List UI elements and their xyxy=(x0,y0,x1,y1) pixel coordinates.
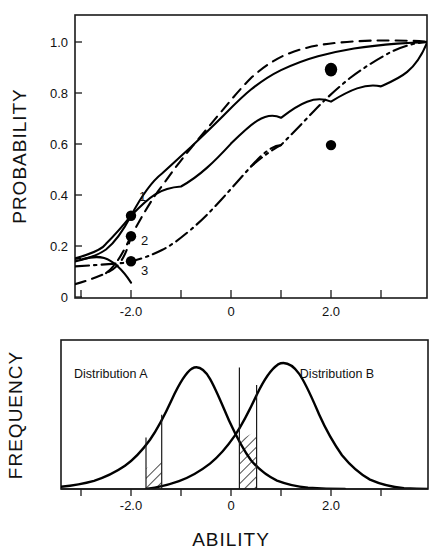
top-xtick-0: 0 xyxy=(227,304,234,319)
curve-label-1: 1 xyxy=(139,189,146,204)
marker-curve-3 xyxy=(126,256,136,266)
curve-label-2: 2 xyxy=(141,233,148,248)
marker-curve-1 xyxy=(126,211,136,221)
bottom-xtick-0: 0 xyxy=(227,498,234,513)
top-ytick-0_8: 0.8 xyxy=(50,86,68,101)
marker-curve-1-2-right xyxy=(325,63,337,77)
bottom-x-axis-title: ABILITY xyxy=(192,529,270,550)
figure-root: 1.0 0.8 0.6 0.4 0.2 0 -2.0 0 2.0 PROBABI… xyxy=(0,0,441,557)
distribution-b-label: Distribution B xyxy=(300,367,374,381)
figure-background xyxy=(0,0,441,557)
top-xtick-neg2: -2.0 xyxy=(120,304,142,319)
curve-label-3: 3 xyxy=(141,263,148,278)
top-ytick-0_4: 0.4 xyxy=(50,188,68,203)
top-ytick-0_2: 0.2 xyxy=(50,239,68,254)
top-ytick-0: 0 xyxy=(61,290,68,305)
marker-curve-2 xyxy=(126,231,136,241)
distribution-a-label: Distribution A xyxy=(74,367,148,381)
top-xtick-2: 2.0 xyxy=(322,304,340,319)
top-ytick-0_6: 0.6 xyxy=(50,137,68,152)
bottom-xtick-neg2: -2.0 xyxy=(120,498,142,513)
top-y-axis-title: PROBABILITY xyxy=(9,88,30,224)
bottom-y-axis-title: FREQUENCY xyxy=(5,351,26,479)
bottom-xtick-2: 2.0 xyxy=(322,498,340,513)
marker-curve-3-right xyxy=(326,140,336,150)
top-ytick-1_0: 1.0 xyxy=(50,35,68,50)
